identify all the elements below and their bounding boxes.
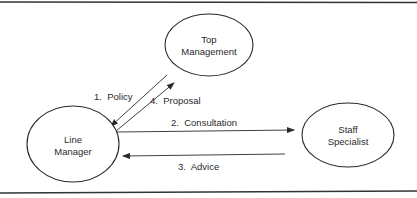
node-line-manager: Line Manager [27,106,119,182]
edge-consultation-arrow [117,130,294,132]
edge-policy-label: 1. Policy [94,91,133,102]
top-rule [0,2,417,3]
node-top-management-shape [165,14,253,76]
node-top-management-label-2: Management [181,46,237,57]
node-staff-specialist: Staff Specialist [302,103,394,167]
node-staff-specialist-label-2: Specialist [328,136,369,147]
node-staff-specialist-shape [302,103,394,167]
node-line-manager-label-2: Manager [54,146,92,157]
node-top-management-label-1: Top [201,34,216,45]
line-staff-diagram: Top Management Line Manager Staff Specia… [0,0,417,198]
edge-advice-label: 3. Advice [178,161,219,172]
node-staff-specialist-label-1: Staff [338,124,358,135]
node-top-management: Top Management [165,14,253,76]
edge-advice-arrow [123,154,285,156]
edge-consultation-label: 2. Consultation [171,117,237,128]
node-line-manager-label-1: Line [64,134,82,145]
edge-proposal-label: 4. Proposal [150,95,201,106]
bottom-rule [0,191,417,193]
